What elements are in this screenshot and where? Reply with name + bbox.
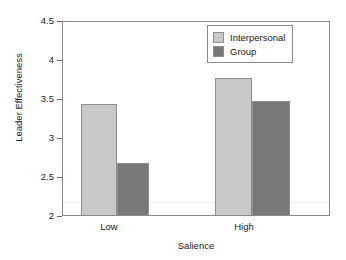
x-tick-label-high: High <box>213 221 275 232</box>
bar-low-interpersonal <box>81 104 117 215</box>
y-tick-label: 2 <box>49 209 54 222</box>
y-tick-label: 4 <box>49 53 54 66</box>
y-axis-title: Leader Effectiveness <box>13 23 24 173</box>
legend-label: Interpersonal <box>230 32 285 43</box>
legend-swatch-icon <box>213 46 224 57</box>
bar-high-group <box>252 101 290 215</box>
bar-low-group <box>117 163 149 215</box>
bar-chart-figure: 4.5 4 3.5 3 2.5 2 Leader Effectiveness <box>0 0 346 260</box>
y-tick-label: 3 <box>49 131 54 144</box>
x-axis-title: Salience <box>62 240 330 251</box>
legend-swatch-icon <box>213 32 224 43</box>
y-tick-label: 4.5 <box>41 14 54 27</box>
y-axis: 4.5 4 3.5 3 2.5 2 <box>0 0 62 260</box>
legend-item-interpersonal: Interpersonal <box>213 30 285 44</box>
y-tick-label: 2.5 <box>41 170 54 183</box>
legend-item-group: Group <box>213 44 285 58</box>
x-tick-label-low: Low <box>78 221 140 232</box>
legend-label: Group <box>230 46 256 57</box>
legend: Interpersonal Group <box>207 25 293 63</box>
y-tick-label: 3.5 <box>41 92 54 105</box>
bar-high-interpersonal <box>215 78 252 215</box>
